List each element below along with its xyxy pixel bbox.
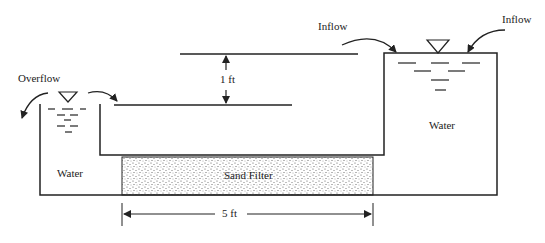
inflow-arrow-left [342,39,396,52]
overflow-arrow-left [22,93,48,118]
inflow-arrow-right [468,30,505,52]
inflow-label-left: Inflow [318,20,347,32]
sand-filter-diagram [0,0,545,243]
water-surface-symbol-right [398,40,480,90]
inflow-label-right: Inflow [502,13,531,25]
sand-filter-label: Sand Filter [224,169,273,181]
water-surface-symbol-left [48,92,86,132]
water-label-left: Water [57,167,83,179]
head-difference-label: 1 ft [220,73,235,85]
overflow-arrow-right [88,92,117,101]
overflow-label: Overflow [18,72,60,84]
filter-length-label: 5 ft [222,207,237,219]
water-label-right: Water [429,119,455,131]
